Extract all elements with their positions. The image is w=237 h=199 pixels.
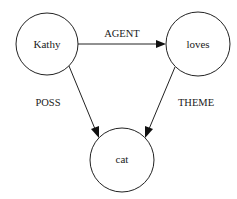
semantic-network-diagram: AGENT POSS THEME Kathy loves cat xyxy=(0,0,237,199)
node-label-loves: loves xyxy=(186,38,209,50)
edge-label-poss: POSS xyxy=(35,97,60,108)
node-label-cat: cat xyxy=(116,153,129,165)
edge-theme: THEME xyxy=(145,67,214,138)
arrowhead-icon xyxy=(156,40,166,48)
arrowhead-icon xyxy=(145,126,153,138)
edge-label-theme: THEME xyxy=(178,97,214,108)
arrowhead-icon xyxy=(91,126,99,138)
edge-poss: POSS xyxy=(35,66,99,138)
node-cat: cat xyxy=(90,128,154,192)
node-kathy: Kathy xyxy=(16,13,78,75)
node-label-kathy: Kathy xyxy=(34,38,61,50)
edge-label-agent: AGENT xyxy=(104,28,140,39)
edge-agent: AGENT xyxy=(78,28,166,48)
node-loves: loves xyxy=(166,12,230,76)
